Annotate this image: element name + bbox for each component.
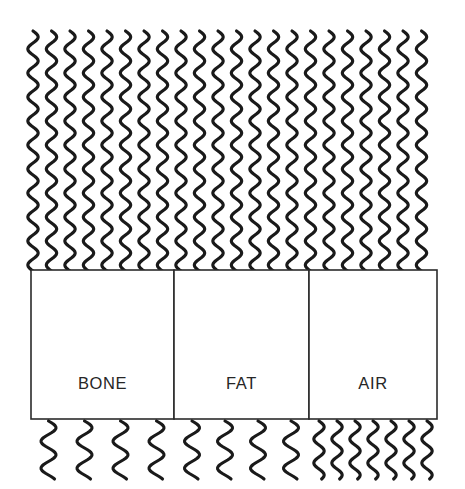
incident-wave xyxy=(157,31,167,271)
incident-wave xyxy=(231,31,241,271)
material-box-group xyxy=(31,270,437,419)
material-box-bone xyxy=(31,270,174,419)
transmitted-wave-fat xyxy=(185,421,200,479)
transmitted-wave-fat xyxy=(251,421,266,479)
material-label-fat: FAT xyxy=(226,374,257,392)
transmitted-wave-bone xyxy=(113,421,128,479)
transmitted-wave-group xyxy=(41,421,432,479)
incident-wave xyxy=(28,31,38,271)
transmitted-wave-air xyxy=(332,421,342,479)
transmitted-wave-air xyxy=(368,421,378,479)
ultrasound-transmission-figure: BONEFATAIR xyxy=(0,0,465,489)
transmitted-wave-air xyxy=(314,421,324,479)
incident-wave xyxy=(416,31,426,271)
incident-wave xyxy=(176,31,186,271)
incident-wave xyxy=(83,31,93,271)
transmitted-wave-bone xyxy=(77,421,92,479)
incident-wave-group xyxy=(28,31,427,271)
transmitted-wave-air xyxy=(404,421,414,479)
material-label-bone: BONE xyxy=(78,374,127,392)
figure-canvas: BONEFATAIR xyxy=(0,0,465,489)
incident-wave xyxy=(305,31,315,271)
transmitted-wave-air xyxy=(422,421,432,479)
incident-wave xyxy=(250,31,260,271)
incident-wave xyxy=(342,31,352,271)
material-label-air: AIR xyxy=(358,374,387,392)
transmitted-wave-fat xyxy=(218,421,233,479)
material-box-air xyxy=(309,270,437,419)
material-box-fat xyxy=(174,270,309,419)
transmitted-wave-bone xyxy=(41,421,56,479)
incident-wave xyxy=(287,31,297,271)
incident-wave xyxy=(268,31,278,271)
incident-wave xyxy=(213,31,223,271)
incident-wave xyxy=(379,31,389,271)
transmitted-wave-bone xyxy=(149,421,164,479)
incident-wave xyxy=(120,31,130,271)
transmitted-wave-air xyxy=(386,421,396,479)
incident-wave xyxy=(324,31,334,271)
incident-wave xyxy=(102,31,112,271)
transmitted-wave-fat xyxy=(284,421,299,479)
transmitted-wave-air xyxy=(350,421,360,479)
incident-wave xyxy=(139,31,149,271)
incident-wave xyxy=(361,31,371,271)
incident-wave xyxy=(398,31,408,271)
incident-wave xyxy=(65,31,75,271)
incident-wave xyxy=(46,31,56,271)
incident-wave xyxy=(194,31,204,271)
